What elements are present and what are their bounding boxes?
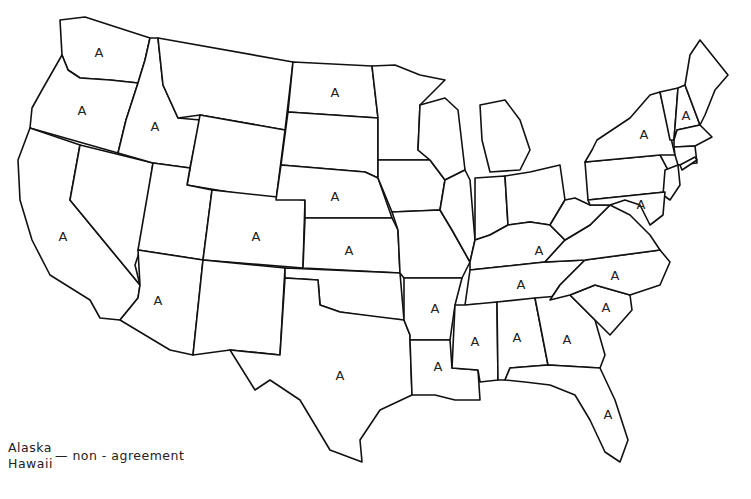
state-marker-alabama: A [513, 330, 522, 345]
state-montana [158, 38, 293, 130]
state-marker-louisiana: A [434, 359, 443, 374]
legend: Alaska Hawaii — non - agreement [8, 440, 184, 472]
state-marker-kentucky: A [535, 243, 544, 258]
legend-names: Alaska Hawaii [8, 440, 53, 472]
state-marker-north-dakota: A [331, 85, 340, 100]
state-marker-washington: A [95, 45, 104, 60]
state-marker-north-carolina: A [611, 268, 620, 283]
state-marker-mississippi: A [471, 334, 480, 349]
legend-description: — non - agreement [55, 448, 184, 464]
state-marker-oregon: A [78, 103, 87, 118]
state-marker-florida: A [604, 407, 613, 422]
state-marker-georgia: A [563, 332, 572, 347]
state-marker-new-hampshire: A [682, 108, 691, 123]
state-marker-kansas: A [345, 243, 354, 258]
state-marker-nebraska: A [331, 189, 340, 204]
state-marker-new-york: A [640, 127, 649, 142]
state-marker-south-carolina: A [602, 300, 611, 315]
state-new-mexico [193, 260, 285, 355]
state-marker-arizona: A [154, 293, 163, 308]
state-michigan [480, 100, 530, 172]
legend-text: non - agreement [72, 448, 184, 463]
legend-alaska: Alaska [8, 440, 53, 456]
us-map: AAAAAAAAAAAAAAAAAAAAAAA [0, 0, 751, 499]
state-marker-california: A [59, 229, 68, 244]
state-marker-maryland: A [637, 197, 646, 212]
legend-hawaii: Hawaii [8, 456, 53, 472]
state-marker-tennessee: A [517, 277, 526, 292]
state-marker-colorado: A [252, 229, 261, 244]
state-marker-idaho: A [151, 119, 160, 134]
state-marker-arkansas: A [431, 301, 440, 316]
state-marker-texas: A [336, 368, 345, 383]
legend-dash: — [55, 448, 68, 463]
